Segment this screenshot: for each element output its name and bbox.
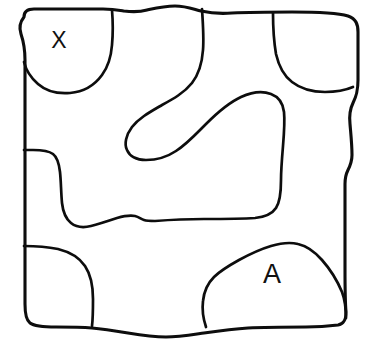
diagram-canvas: X A <box>0 0 379 348</box>
region-label-a: A <box>263 259 281 289</box>
region-label-x: X <box>51 27 66 53</box>
region-map-svg: X A <box>0 0 379 348</box>
